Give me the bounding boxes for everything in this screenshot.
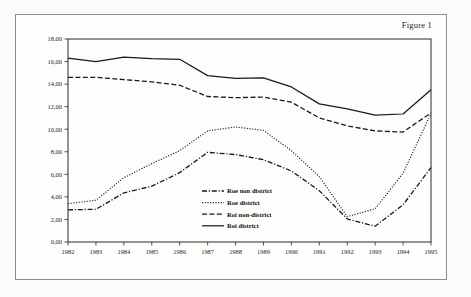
- series-line-roi-district: [68, 57, 431, 115]
- figure-outer-frame: Figure 1 0,002,004,006,008,0010,0012,001…: [15, 14, 447, 280]
- x-axis-label: 1990: [285, 248, 298, 255]
- y-axis-label: 14,00: [48, 80, 62, 87]
- x-axis-label: 1992: [341, 248, 354, 255]
- x-axis-label: 1989: [257, 248, 270, 255]
- x-axis-label: 1982: [62, 248, 75, 255]
- y-axis-tick-group: 0,002,004,006,008,0010,0012,0014,0016,00…: [48, 35, 68, 245]
- series-line-roi-non-district: [68, 77, 431, 132]
- y-axis-label: 0,00: [51, 238, 62, 245]
- x-axis-label: 1985: [145, 248, 158, 255]
- x-axis-label: 1991: [313, 248, 326, 255]
- legend-label: Roi non-district: [227, 211, 272, 218]
- y-axis-label: 12,00: [48, 103, 62, 110]
- x-axis-label: 1994: [397, 248, 411, 255]
- x-axis-label: 1983: [90, 248, 103, 255]
- x-axis-label: 1993: [369, 248, 382, 255]
- y-axis-label: 2,00: [51, 216, 62, 223]
- legend-label: Roi district: [227, 222, 259, 229]
- chart-plot-area: 0,002,004,006,008,0010,0012,0014,0016,00…: [16, 15, 448, 281]
- figure-page: Figure 1 0,002,004,006,008,0010,0012,001…: [0, 0, 471, 297]
- x-axis-label: 1987: [201, 248, 215, 255]
- y-axis-label: 8,00: [51, 148, 62, 155]
- x-axis-tick-group: 1982198319841985198619871988198919901991…: [62, 242, 438, 255]
- legend-label: Roe district: [227, 199, 261, 206]
- line-chart: 0,002,004,006,008,0010,0012,0014,0016,00…: [16, 15, 448, 281]
- x-axis-label: 1986: [173, 248, 186, 255]
- x-axis-label: 1995: [425, 248, 438, 255]
- legend-label: Roe non district: [227, 187, 273, 194]
- y-axis-label: 6,00: [51, 171, 62, 178]
- y-axis-label: 10,00: [48, 126, 62, 133]
- y-axis-label: 16,00: [48, 58, 62, 65]
- y-axis-label: 18,00: [48, 35, 62, 42]
- y-axis-label: 4,00: [51, 193, 62, 200]
- chart-legend: Roe non districtRoe districtRoi non-dist…: [202, 187, 273, 229]
- x-axis-label: 1984: [117, 248, 131, 255]
- x-axis-label: 1988: [229, 248, 242, 255]
